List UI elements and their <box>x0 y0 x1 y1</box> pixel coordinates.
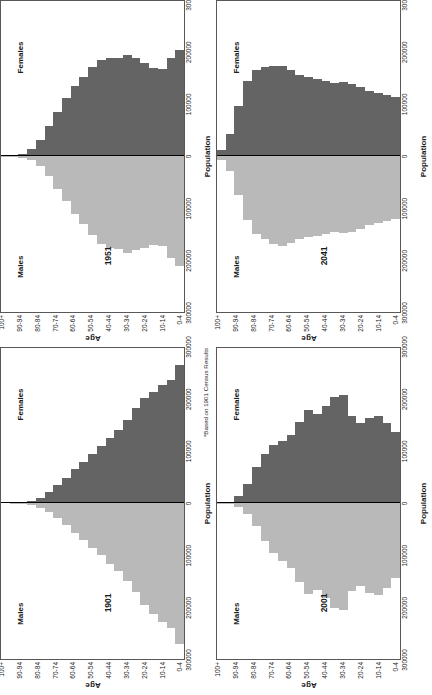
male-half <box>304 157 313 313</box>
plot-area-2001: Males Females 2001 <box>216 347 401 660</box>
pyramid-row <box>304 348 313 659</box>
y-axis-2001: Age 100+90-9480-8470-7460-6450-5440-4430… <box>216 660 401 694</box>
x-tick-label: 200000 <box>402 597 409 619</box>
female-half <box>132 1 141 157</box>
female-half <box>158 1 167 157</box>
male-half <box>10 157 19 313</box>
female-half <box>1 348 10 504</box>
bar-female <box>304 77 313 157</box>
y-axis-ticks: 100+90-9480-8470-7460-6450-5440-4430-342… <box>216 315 401 341</box>
bar-male <box>391 157 400 219</box>
bar-female <box>140 63 149 156</box>
bar-male <box>62 504 71 526</box>
male-half <box>226 157 235 313</box>
pyramid-row <box>348 1 357 312</box>
bar-male <box>123 157 132 253</box>
y-tick-label: 90-94 <box>17 662 24 688</box>
female-half <box>114 348 123 504</box>
male-half <box>330 157 339 313</box>
bar-male <box>278 157 287 246</box>
bar-female <box>374 416 383 503</box>
y-axis-1951: Age 100+90-9480-8470-7460-6450-5440-4430… <box>0 313 185 347</box>
pyramid-row <box>62 1 71 312</box>
female-half <box>322 1 331 157</box>
male-half <box>234 157 243 313</box>
bar-male <box>295 157 304 240</box>
bar-male <box>287 157 296 243</box>
pyramid-row <box>132 348 141 659</box>
pyramid-row <box>217 348 226 659</box>
bar-male <box>356 157 365 230</box>
male-half <box>278 157 287 313</box>
bar-male <box>114 157 123 249</box>
male-half <box>53 157 62 313</box>
female-half <box>287 348 296 504</box>
bar-male <box>79 504 88 540</box>
female-half <box>36 1 45 157</box>
male-half <box>252 504 261 660</box>
female-half <box>10 348 19 504</box>
x-tick-label: 200000 <box>402 41 409 63</box>
bar-male <box>140 504 149 606</box>
pyramid-row <box>27 1 36 312</box>
bar-female <box>53 112 62 157</box>
male-half <box>27 157 36 313</box>
male-half <box>287 504 296 660</box>
male-half <box>132 504 141 660</box>
female-half <box>175 348 184 504</box>
year-label: 2041 <box>319 246 329 265</box>
y-tick-label: 80-84 <box>251 662 258 688</box>
x-tick-label: 100000 <box>186 545 193 567</box>
female-half <box>304 348 313 504</box>
male-half <box>36 157 45 313</box>
bar-female <box>252 70 261 156</box>
bar-female <box>88 67 97 156</box>
chart-panel-1901: Age 100+90-9480-8470-7460-6450-5440-4430… <box>0 347 216 694</box>
male-half <box>269 157 278 313</box>
x-tick-label: 200000 <box>186 597 193 619</box>
y-axis-ticks: 100+90-9480-8470-7460-6450-5440-4430-342… <box>0 315 185 341</box>
legend-males: Males <box>16 256 25 278</box>
bar-male <box>97 504 106 556</box>
bar-male <box>295 504 304 583</box>
male-half <box>295 157 304 313</box>
y-tick-label: 10-14 <box>160 315 167 341</box>
bar-female <box>175 365 184 504</box>
x-tick-label: 100000 <box>186 93 193 115</box>
bar-female <box>269 66 278 156</box>
pyramid-row <box>330 348 339 659</box>
x-tick-label: 100000 <box>402 198 409 220</box>
male-half <box>365 157 374 313</box>
male-half <box>287 157 296 313</box>
chart-panel-2041: Age 100+90-9480-8470-7460-6450-5440-4430… <box>216 0 432 347</box>
female-half <box>217 348 226 504</box>
bar-female <box>356 87 365 156</box>
female-half <box>167 348 176 504</box>
male-half <box>62 504 71 660</box>
x-tick-label: 100000 <box>186 440 193 462</box>
bar-male <box>140 157 149 249</box>
bar-female <box>313 79 322 157</box>
plot-area-2041: Males Females 2041 <box>216 0 401 313</box>
bar-female <box>79 462 88 503</box>
bar-female <box>383 95 392 156</box>
figure-page: Age 100+90-9480-8470-7460-6450-5440-4430… <box>0 0 432 695</box>
male-half <box>391 504 400 660</box>
female-half <box>97 1 106 157</box>
y-axis-ticks: 100+90-9480-8470-7460-6450-5440-4430-342… <box>216 662 401 688</box>
female-half <box>149 1 158 157</box>
female-half <box>1 1 10 157</box>
male-half <box>313 504 322 660</box>
pyramid-row <box>140 1 149 312</box>
y-tick-label: 30-34 <box>124 315 131 341</box>
bar-male <box>123 504 132 582</box>
female-half <box>330 348 339 504</box>
female-half <box>62 348 71 504</box>
x-tick-label: 200000 <box>402 388 409 410</box>
pyramid-row <box>383 348 392 659</box>
male-half <box>132 157 141 313</box>
bar-male <box>175 504 184 645</box>
bar-female <box>149 392 158 504</box>
bar-female <box>356 423 365 504</box>
bar-female <box>106 58 115 156</box>
